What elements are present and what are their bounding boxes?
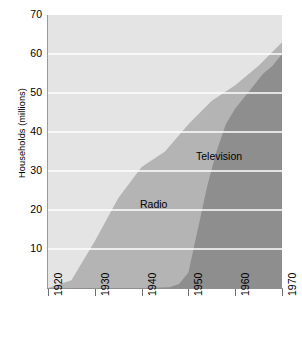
series-label-television: Television — [196, 150, 242, 162]
x-tick-label: 1960 — [239, 273, 251, 296]
x-tick-mark — [142, 289, 143, 296]
y-tick-label: 60 — [8, 48, 42, 58]
x-tick-mark — [282, 289, 283, 296]
plot-svg — [48, 15, 282, 288]
y-tick-label: 10 — [8, 243, 42, 253]
y-tick-label: 20 — [8, 204, 42, 214]
x-tick-label: 1970 — [286, 273, 298, 296]
x-tick-mark — [235, 289, 236, 296]
x-tick-label: 1930 — [99, 273, 111, 296]
x-tick-mark — [95, 289, 96, 296]
y-tick-label: 70 — [8, 9, 42, 19]
y-tick-label: 40 — [8, 126, 42, 136]
x-tick-label: 1940 — [146, 273, 158, 296]
y-tick-label: 50 — [8, 87, 42, 97]
y-tick-label: 30 — [8, 165, 42, 175]
area-chart: Households (millions) 70 60 50 40 30 20 … — [0, 0, 302, 340]
x-tick-label: 1950 — [192, 273, 204, 296]
plot-area — [48, 15, 282, 288]
x-tick-mark — [188, 289, 189, 296]
x-tick-label: 1920 — [52, 273, 64, 296]
series-label-radio: Radio — [140, 198, 167, 210]
x-tick-mark — [48, 289, 49, 296]
y-axis-tick-labels: 70 60 50 40 30 20 10 — [6, 0, 42, 340]
